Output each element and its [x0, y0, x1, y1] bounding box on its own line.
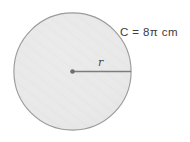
- circle-diagram-canvas: [0, 0, 190, 142]
- geometry-figure: C = 8π cm r: [0, 0, 190, 142]
- center-point-dot: [70, 69, 75, 74]
